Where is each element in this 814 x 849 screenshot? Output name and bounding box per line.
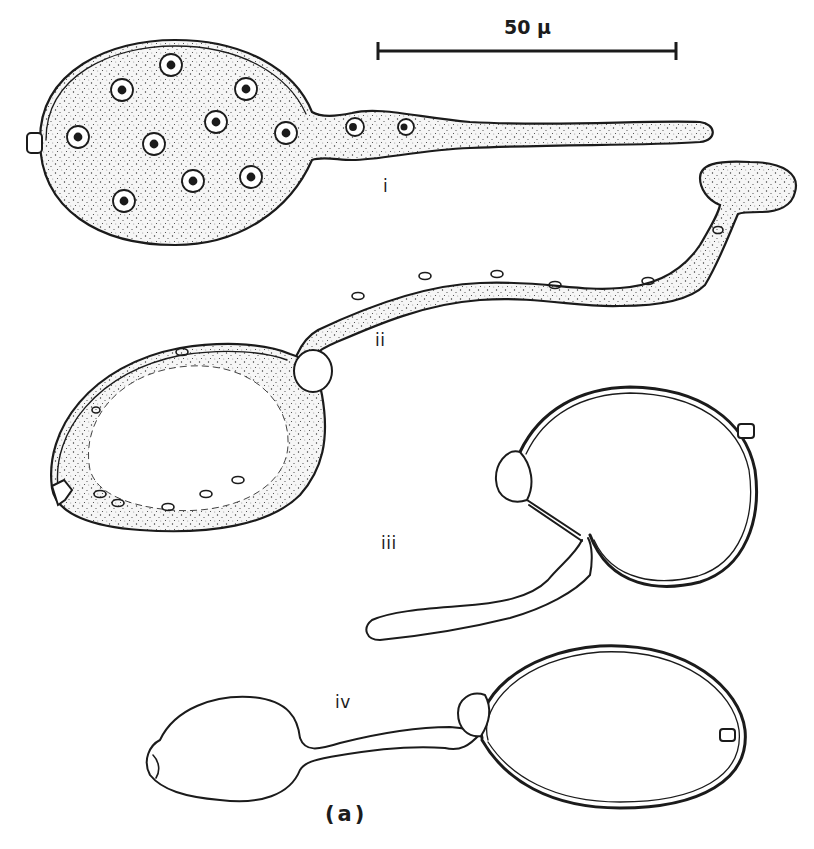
pore-plug-icon: [720, 729, 735, 741]
pore-plug-icon: [738, 424, 754, 438]
stage-label-iv: iv: [335, 692, 351, 712]
pore-plug-icon: [27, 133, 42, 153]
stage-iii-cell: [366, 387, 756, 640]
stage-label-i: i: [383, 176, 388, 196]
appressorium-swelling: [294, 350, 332, 392]
stage-iv-cell: [147, 646, 746, 808]
stage-i-cell: [27, 40, 713, 245]
stage-label-ii: ii: [375, 330, 385, 350]
scale-bar: [378, 42, 676, 60]
figure-panel-a: 50 µ i ii iii iv (a): [0, 0, 814, 849]
panel-label: (a): [325, 802, 367, 826]
scale-bar-label: 50 µ: [504, 16, 551, 38]
stage-label-iii: iii: [381, 533, 397, 553]
illustration-canvas: [0, 0, 814, 849]
